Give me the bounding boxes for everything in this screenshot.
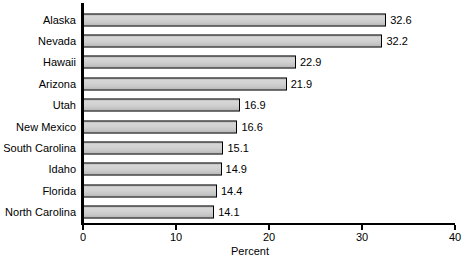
x-axis-tick xyxy=(268,225,270,230)
bar[interactable] xyxy=(83,120,237,133)
bar[interactable] xyxy=(83,99,240,112)
x-axis-title-text: Percent xyxy=(231,245,269,257)
category-label: Idaho xyxy=(48,163,76,175)
bar-row: South Carolina15.1 xyxy=(0,137,462,158)
bar-value-label: 16.6 xyxy=(241,121,262,133)
x-axis-tick-label: 20 xyxy=(263,231,275,243)
bar[interactable] xyxy=(83,141,223,154)
bar-value-label: 22.9 xyxy=(300,56,321,68)
x-axis-tick xyxy=(82,225,84,230)
category-label: Utah xyxy=(53,99,76,111)
bar-value-label: 14.9 xyxy=(226,163,247,175)
bar-row: Alaska32.6 xyxy=(0,9,462,30)
bar[interactable] xyxy=(83,184,217,197)
category-label: Hawaii xyxy=(43,56,76,68)
category-label: South Carolina xyxy=(3,142,76,154)
category-label: North Carolina xyxy=(5,206,76,218)
y-axis-line xyxy=(81,3,84,225)
x-axis-tick-label: 0 xyxy=(80,231,86,243)
bar-value-label: 14.4 xyxy=(221,185,242,197)
bar[interactable] xyxy=(83,206,214,219)
bar[interactable] xyxy=(83,56,296,69)
bar-row: Arizona21.9 xyxy=(0,73,462,94)
bar-rows: Alaska32.6Nevada32.2Hawaii22.9Arizona21.… xyxy=(0,0,462,224)
bar[interactable] xyxy=(83,163,222,176)
bar[interactable] xyxy=(83,34,382,47)
bar-row: Idaho14.9 xyxy=(0,159,462,180)
category-label: Alaska xyxy=(43,14,76,26)
bar[interactable] xyxy=(83,77,287,90)
bar-row: North Carolina14.1 xyxy=(0,202,462,223)
x-axis-tick xyxy=(454,225,456,230)
bar-value-label: 16.9 xyxy=(244,99,265,111)
bar-value-label: 14.1 xyxy=(218,206,239,218)
category-label: Arizona xyxy=(39,78,76,90)
x-axis-tick xyxy=(175,225,177,230)
bar-row: Nevada32.2 xyxy=(0,30,462,51)
bar-chart: Alaska32.6Nevada32.2Hawaii22.9Arizona21.… xyxy=(0,0,462,263)
x-axis-title: Percent xyxy=(0,245,462,257)
plot-area: Alaska32.6Nevada32.2Hawaii22.9Arizona21.… xyxy=(0,0,462,263)
bar-value-label: 15.1 xyxy=(227,142,248,154)
bar-value-label: 32.6 xyxy=(390,14,411,26)
bar-row: New Mexico16.6 xyxy=(0,116,462,137)
x-axis-tick-label: 40 xyxy=(449,231,461,243)
bar-value-label: 21.9 xyxy=(291,78,312,90)
bar-row: Hawaii22.9 xyxy=(0,52,462,73)
x-axis-tick-label: 10 xyxy=(170,231,182,243)
bar[interactable] xyxy=(83,13,386,26)
x-axis-tick-label: 30 xyxy=(356,231,368,243)
bar-row: Utah16.9 xyxy=(0,95,462,116)
category-label: New Mexico xyxy=(16,121,76,133)
bar-value-label: 32.2 xyxy=(386,35,407,47)
bar-row: Florida14.4 xyxy=(0,180,462,201)
category-label: Nevada xyxy=(38,35,76,47)
category-label: Florida xyxy=(42,185,76,197)
x-axis-tick xyxy=(361,225,363,230)
